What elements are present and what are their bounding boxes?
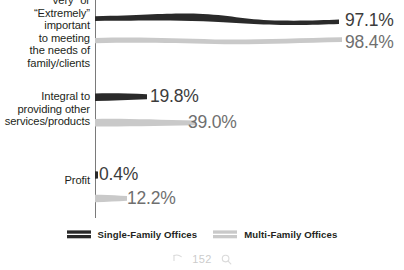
dark-bar-shape: [95, 92, 147, 103]
legend-label-multi-family: Multi-Family Offices: [244, 229, 337, 240]
dark-bar-swatch-icon: [67, 230, 91, 239]
legend-item-single-family[interactable]: Single-Family Offices: [67, 229, 198, 240]
chart-legend: Single-Family Offices Multi-Family Offic…: [0, 224, 404, 244]
bar-multi-family-importance: [95, 35, 342, 48]
category-label-line: important: [0, 19, 90, 32]
magnifier-icon[interactable]: [221, 254, 232, 265]
value-label-single-family-profit: 0.4%: [99, 166, 138, 184]
light-bar-swatch-icon: [213, 230, 237, 239]
bar-single-family-importance: [95, 13, 339, 27]
category-label-line: family/clients: [0, 57, 90, 70]
category-label-integral: Integral to providing other services/pro…: [0, 90, 90, 128]
category-label-line: “Very” or: [0, 0, 90, 7]
value-label-multi-family-integral: 39.0%: [188, 114, 237, 132]
light-bar-shape: [95, 193, 127, 204]
bar-multi-family-profit: [95, 193, 127, 204]
page-number: 152: [192, 253, 212, 265]
category-label-profit: Profit: [0, 174, 90, 187]
light-bar-shape: [95, 35, 342, 48]
value-label-single-family-importance: 97.1%: [345, 12, 394, 30]
bar-single-family-profit: [95, 170, 98, 181]
category-label-line: Integral to: [0, 90, 90, 103]
page-footer: 152: [0, 248, 404, 270]
dark-bar-shape: [95, 170, 98, 181]
value-axis-line: [95, 0, 96, 218]
dark-bar-shape: [95, 13, 339, 27]
value-label-multi-family-profit: 12.2%: [127, 190, 176, 208]
category-label-importance: “Very” or “Extremely” important to meeti…: [0, 0, 90, 70]
plot-area: “Very” or “Extremely” important to meeti…: [0, 0, 404, 220]
legend-label-single-family: Single-Family Offices: [98, 229, 198, 240]
bar-multi-family-integral: [95, 117, 196, 129]
category-label-line: to meeting: [0, 32, 90, 45]
category-label-line: Profit: [0, 174, 90, 187]
category-label-line: “Extremely”: [0, 7, 90, 20]
category-label-line: the needs of: [0, 44, 90, 57]
value-label-multi-family-importance: 98.4%: [345, 34, 394, 52]
bookmark-icon[interactable]: [172, 254, 183, 265]
category-label-line: providing other: [0, 103, 90, 116]
bar-single-family-integral: [95, 92, 147, 103]
category-label-line: services/products: [0, 115, 90, 128]
value-label-single-family-integral: 19.8%: [150, 88, 199, 106]
chart-container: “Very” or “Extremely” important to meeti…: [0, 0, 404, 270]
light-bar-shape: [95, 117, 196, 129]
legend-item-multi-family[interactable]: Multi-Family Offices: [213, 229, 337, 240]
